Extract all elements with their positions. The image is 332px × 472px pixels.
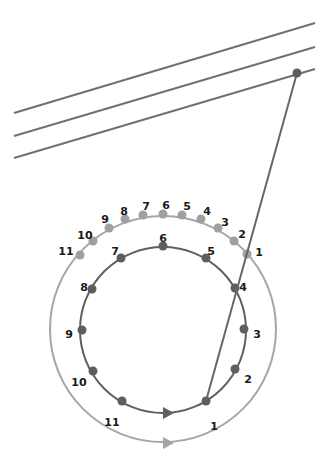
inner-circle-group [78, 242, 249, 420]
inner-point-11 [118, 397, 127, 406]
bottom-label-11: 11 [104, 416, 119, 429]
parallel-line-1 [14, 23, 315, 113]
inner-point-label: 10 [71, 376, 87, 389]
inner-point-10 [89, 367, 98, 376]
inner-point-label: 7 [111, 245, 119, 258]
inner-circle [80, 247, 246, 413]
outer-point-label: 7 [142, 200, 150, 213]
connector-line-group [206, 69, 302, 402]
diagram-canvas: 12345678910111112345678910 [0, 0, 332, 472]
parallel-lines [14, 23, 315, 158]
parallel-line-2 [14, 47, 315, 136]
inner-direction-arrow-icon [163, 407, 174, 419]
inner-point-label: 3 [253, 328, 261, 341]
outer-point-label: 3 [221, 216, 229, 229]
outer-point-label: 8 [120, 205, 128, 218]
inner-point-label: 1 [210, 420, 218, 433]
inner-point-label: 4 [239, 281, 247, 294]
connector-line [206, 73, 297, 401]
outer-point-label: 9 [101, 213, 109, 226]
inner-point-label: 6 [159, 232, 167, 245]
outer-point-label: 1 [255, 246, 263, 259]
inner-point-label: 9 [65, 328, 73, 341]
outer-point-label: 6 [162, 199, 170, 212]
inner-point-3 [240, 325, 249, 334]
outer-point-label: 4 [203, 205, 211, 218]
outer-point-label: 10 [77, 229, 93, 242]
outer-point-2 [230, 237, 239, 246]
inner-point-label: 8 [80, 281, 88, 294]
outer-point-label: 2 [238, 228, 246, 241]
inner-point-9 [78, 326, 87, 335]
outer-point-label: 11 [58, 245, 73, 258]
inner-point-8 [88, 285, 97, 294]
outer-point-11 [76, 251, 85, 260]
inner-point-label: 2 [244, 373, 252, 386]
inner-point-label: 5 [207, 245, 215, 258]
outer-point-label: 5 [183, 200, 191, 213]
point-labels: 12345678910111112345678910 [58, 199, 262, 433]
outer-direction-arrow-icon [163, 437, 174, 449]
inner-point-2 [231, 365, 240, 374]
parallel-line-3 [14, 69, 315, 158]
connector-top-point [293, 69, 302, 78]
